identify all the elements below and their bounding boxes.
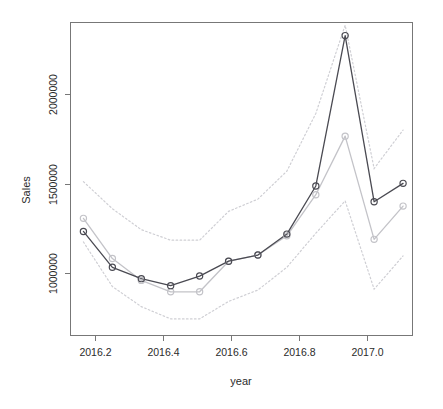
upper-confidence-band — [83, 25, 403, 240]
x-axis-ticks — [96, 336, 368, 342]
plot-canvas: 2000000 1500000 1000000 Sales 2016.2 201… — [0, 0, 443, 409]
y-axis-ticks — [65, 95, 71, 274]
fitted-series-line — [83, 136, 403, 292]
x-tick-label-2017-0: 2017.0 — [351, 346, 383, 358]
x-axis-title: year — [230, 375, 252, 387]
x-tick-label-2016-6: 2016.6 — [215, 346, 247, 358]
x-tick-label-2016-8: 2016.8 — [283, 346, 315, 358]
x-tick-label-2016-2: 2016.2 — [79, 346, 111, 358]
y-tick-label-2000000: 2000000 — [47, 74, 59, 115]
y-axis-tick-labels: 2000000 1500000 1000000 — [47, 74, 59, 294]
x-tick-label-2016-4: 2016.4 — [147, 346, 179, 358]
y-axis-title: Sales — [20, 176, 32, 204]
series-layer — [80, 25, 406, 319]
x-axis-tick-labels: 2016.2 2016.4 2016.6 2016.8 2017.0 — [79, 346, 383, 358]
y-tick-label-1500000: 1500000 — [47, 164, 59, 205]
sales-forecast-chart: 2000000 1500000 1000000 Sales 2016.2 201… — [0, 0, 443, 409]
lower-confidence-band — [83, 201, 403, 319]
y-tick-label-1000000: 1000000 — [47, 253, 59, 294]
actual-series-line — [83, 36, 403, 286]
plot-frame — [71, 23, 413, 336]
